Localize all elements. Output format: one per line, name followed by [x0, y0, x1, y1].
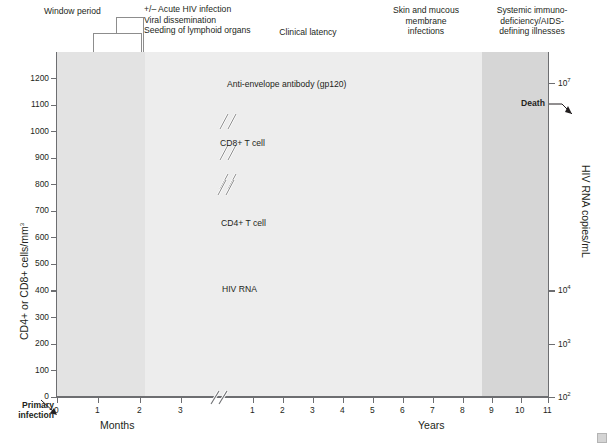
- x-tick-label-year-3: 3: [310, 405, 315, 415]
- y2-tick-mark-1e7: [549, 83, 555, 84]
- y-axis-left-title-text: CD4+ or CD8+ cells/mm: [18, 226, 30, 340]
- x-axis-title-months: Months: [100, 419, 134, 431]
- phase-label-skin-mucous: Skin and mucous membrane infections: [382, 5, 470, 37]
- y-tick-mark-800: [51, 184, 57, 185]
- phase-label-clinical-latency: Clinical latency: [268, 27, 348, 38]
- y-tick-label-1100: 1100: [22, 99, 49, 109]
- x-axis-line: [56, 396, 549, 397]
- plot-area: [57, 52, 548, 397]
- phase-label-aids: Systemic immuno- deficiency/AIDS- defini…: [486, 5, 578, 37]
- x-tick-mark-month-1: [98, 397, 99, 403]
- y-tick-label-1000: 1000: [22, 126, 49, 136]
- y-tick-label-700: 700: [26, 205, 49, 215]
- y-tick-mark-900: [51, 158, 57, 159]
- x-tick-mark-year-7: [433, 397, 434, 403]
- y2-tick-exp-1e4: 4: [567, 284, 570, 290]
- series-label-antibody: Anti-envelope antibody (gp120): [227, 79, 346, 89]
- image-credit-mark: [597, 433, 607, 443]
- x-tick-mark-year-4: [343, 397, 344, 403]
- acute-line-2: Viral dissemination: [144, 15, 294, 26]
- y-axis-right-line: [548, 52, 549, 397]
- y2-tick-label-1e3: 103: [558, 338, 571, 349]
- bracket-connector-horizontal: [116, 17, 144, 18]
- series-label-hivrna: HIV RNA: [222, 284, 257, 294]
- y-tick-mark-500: [51, 264, 57, 265]
- x-tick-mark-year-3: [313, 397, 314, 403]
- y-tick-label-800: 800: [26, 179, 49, 189]
- y2-tick-label-1e2: 102: [558, 391, 571, 402]
- x-tick-mark-year-9: [492, 397, 493, 403]
- y-tick-mark-200: [51, 344, 57, 345]
- x-tick-label-year-7: 7: [430, 405, 435, 415]
- y-tick-label-100: 100: [26, 365, 49, 375]
- acute-line-1: +/– Acute HIV infection: [144, 4, 294, 15]
- y2-tick-base-1e7: 10: [558, 78, 567, 88]
- x-tick-label-year-11: 11: [543, 405, 552, 415]
- x-tick-mark-year-8: [463, 397, 464, 403]
- x-tick-label-month-2: 2: [137, 405, 142, 415]
- y-tick-mark-300: [51, 317, 57, 318]
- y-tick-label-0: 0: [26, 391, 49, 401]
- y-tick-label-1200: 1200: [22, 73, 49, 83]
- y2-tick-base-1e2: 10: [558, 391, 567, 401]
- x-axis-title-years: Years: [418, 419, 444, 431]
- y2-tick-exp-1e3: 3: [567, 338, 570, 344]
- x-axis-break-mark: [208, 390, 232, 406]
- band-clinical-latency: [145, 52, 482, 397]
- bracket-stem: [116, 17, 117, 34]
- skin-line-3: infections: [382, 26, 470, 37]
- series-label-cd4: CD4+ T cell: [221, 218, 266, 228]
- x-tick-mark-month-2: [140, 397, 141, 403]
- x-tick-mark-year-1: [253, 397, 254, 403]
- y-tick-label-600: 600: [26, 232, 49, 242]
- y-tick-mark-1000: [51, 131, 57, 132]
- y2-tick-mark-1e2: [549, 397, 555, 398]
- y-tick-label-400: 400: [26, 285, 49, 295]
- y-tick-mark-700: [51, 211, 57, 212]
- x-tick-mark-year-6: [403, 397, 404, 403]
- aids-line-1: Systemic immuno-: [486, 5, 578, 16]
- series-label-cd8: CD8+ T cell: [220, 138, 265, 148]
- x-tick-mark-year-5: [373, 397, 374, 403]
- x-tick-mark-month-3: [181, 397, 182, 403]
- x-tick-label-year-9: 9: [489, 405, 494, 415]
- y2-tick-label-1e4: 104: [558, 284, 571, 295]
- x-tick-label-year-4: 4: [340, 405, 345, 415]
- window-period-bracket: [93, 33, 142, 53]
- aids-line-2: deficiency/AIDS-: [486, 16, 578, 27]
- x-tick-label-month-3: 3: [178, 405, 183, 415]
- phase-label-window-period: Window period: [44, 6, 134, 17]
- x-tick-label-month-1: 1: [95, 405, 100, 415]
- y-tick-label-300: 300: [26, 312, 49, 322]
- x-tick-mark-month-0: [57, 397, 58, 403]
- axis-break-hivrna: [215, 178, 237, 200]
- y-tick-label-900: 900: [26, 152, 49, 162]
- x-tick-mark-year-10: [521, 397, 522, 403]
- y2-tick-exp-1e7: 7: [567, 77, 570, 83]
- x-tick-label-month-0: 0: [54, 405, 59, 415]
- y-tick-mark-1200: [51, 78, 57, 79]
- y2-tick-mark-1e3: [549, 344, 555, 345]
- band-window-period: [57, 52, 145, 397]
- x-tick-label-year-8: 8: [460, 405, 465, 415]
- aids-line-3: defining illnesses: [486, 26, 578, 37]
- y-tick-label-200: 200: [26, 338, 49, 348]
- hiv-course-figure: Window period +/– Acute HIV infection Vi…: [0, 0, 610, 446]
- x-tick-mark-year-2: [283, 397, 284, 403]
- death-leader-line: [548, 97, 574, 119]
- x-tick-label-year-10: 10: [515, 405, 524, 415]
- y-tick-mark-100: [51, 370, 57, 371]
- y2-tick-base-1e4: 10: [558, 285, 567, 295]
- axis-break-antibody: [217, 112, 239, 134]
- x-tick-mark-year-11: [548, 397, 549, 403]
- y2-tick-exp-1e2: 2: [567, 391, 570, 397]
- y2-tick-label-1e7: 107: [558, 77, 571, 88]
- y-tick-label-500: 500: [26, 258, 49, 268]
- y-tick-mark-400: [51, 290, 57, 291]
- x-tick-label-year-2: 2: [280, 405, 285, 415]
- x-tick-label-year-5: 5: [370, 405, 375, 415]
- y-tick-mark-1100: [51, 105, 57, 106]
- y-axis-left-title-sup: 3: [19, 223, 25, 226]
- skin-line-2: membrane: [382, 16, 470, 27]
- acute-events-leader-line: [143, 17, 144, 52]
